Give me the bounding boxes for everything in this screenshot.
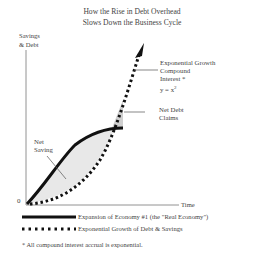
exp-growth-annotation: Exponential Growth Compound Interest * y… bbox=[160, 59, 215, 94]
formula-exponent: 2 bbox=[174, 85, 177, 90]
net-saving-annotation: Net Saving bbox=[34, 138, 53, 154]
net-saving-line-2: Saving bbox=[34, 146, 53, 154]
footnote: * All compound interest accrual is expon… bbox=[22, 241, 143, 248]
arrow-head-icon bbox=[135, 43, 144, 58]
legend-dotted-label: Exponential Growth of Debt & Savings bbox=[78, 225, 183, 232]
exp-line-3: Interest * bbox=[160, 75, 215, 83]
exp-line-1: Exponential Growth bbox=[160, 59, 215, 67]
net-debt-line-1: Net Debt bbox=[159, 106, 184, 114]
net-debt-line-2: Claims bbox=[159, 114, 184, 122]
origin-label: 0 bbox=[17, 197, 21, 205]
net-debt-annotation: Net Debt Claims bbox=[159, 106, 184, 122]
x-axis-label: Time bbox=[181, 201, 195, 208]
net-saving-line-1: Net bbox=[34, 138, 53, 146]
exp-formula: y = x2 bbox=[160, 84, 215, 94]
formula-base: y = x bbox=[160, 86, 174, 93]
legend-solid-label: Expansion of Economy #1 (the "Real Econo… bbox=[78, 213, 208, 220]
exp-line-2: Compound bbox=[160, 67, 215, 75]
net-debt-region bbox=[112, 100, 123, 128]
